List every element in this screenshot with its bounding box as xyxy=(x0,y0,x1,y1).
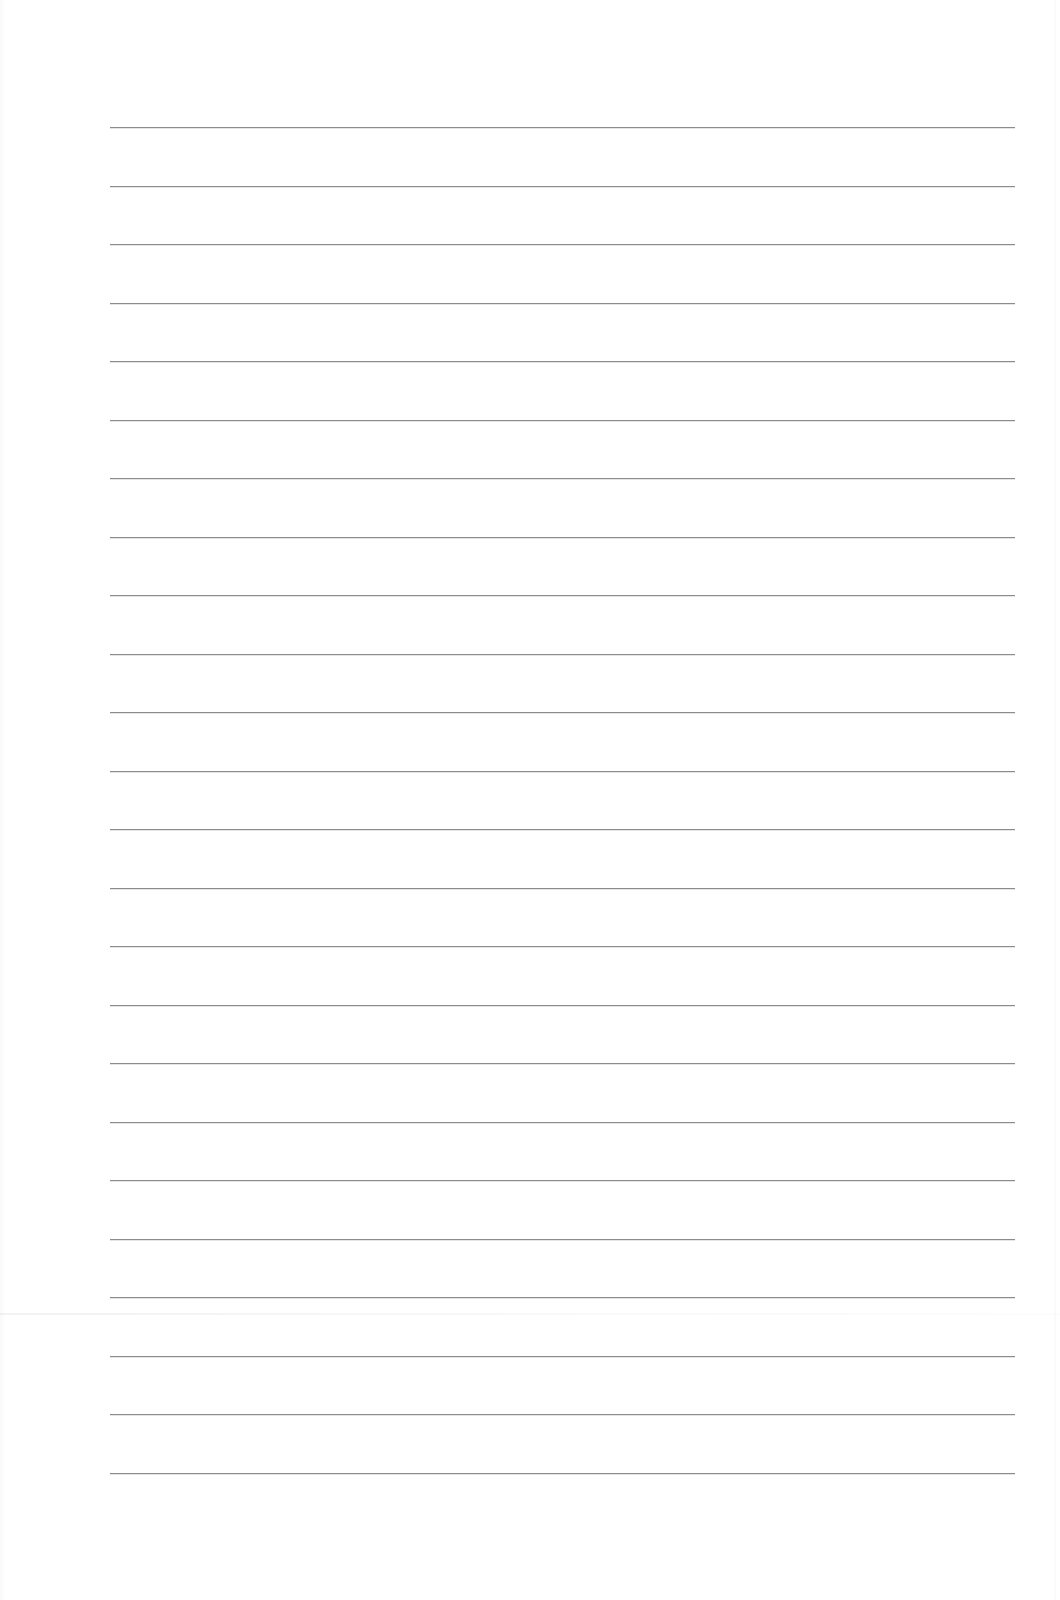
ruled-line xyxy=(110,771,1015,772)
ruled-line xyxy=(110,946,1015,947)
ruled-line xyxy=(110,186,1015,187)
ruled-line xyxy=(110,1063,1015,1064)
ruled-line xyxy=(110,888,1015,889)
ruled-line xyxy=(110,303,1015,304)
ruled-line xyxy=(110,595,1015,596)
ruled-line xyxy=(110,1356,1015,1357)
ruled-line xyxy=(110,829,1015,830)
ruled-line xyxy=(110,1239,1015,1240)
ruled-line xyxy=(110,537,1015,538)
paper-crease xyxy=(0,1313,1060,1315)
ruled-line xyxy=(110,1414,1015,1415)
ruled-line xyxy=(110,1297,1015,1298)
ruled-line xyxy=(110,1180,1015,1181)
ruled-line xyxy=(110,420,1015,421)
ruled-lines-container xyxy=(0,0,1060,1600)
ruled-line xyxy=(110,244,1015,245)
ruled-line xyxy=(110,1473,1015,1474)
lined-paper-page xyxy=(0,0,1060,1600)
ruled-line xyxy=(110,478,1015,479)
ruled-line xyxy=(110,1122,1015,1123)
ruled-line xyxy=(110,1005,1015,1006)
ruled-line xyxy=(110,654,1015,655)
ruled-line xyxy=(110,127,1015,128)
ruled-line xyxy=(110,712,1015,713)
ruled-line xyxy=(110,361,1015,362)
